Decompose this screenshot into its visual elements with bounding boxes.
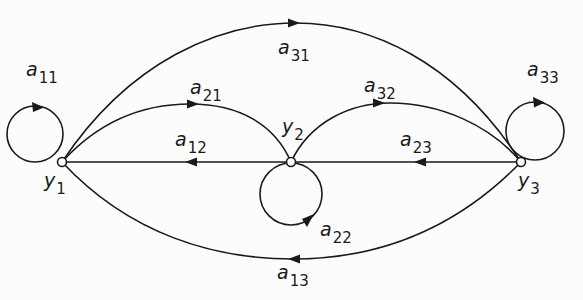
label-y1: y1 xyxy=(44,171,66,190)
arrow-a11-icon xyxy=(32,102,44,112)
label-a22: a22 xyxy=(320,220,352,239)
label-y1-sub: 1 xyxy=(56,180,66,198)
edge-a13 xyxy=(62,162,521,259)
arrow-a21-icon xyxy=(187,100,199,109)
node-y2 xyxy=(287,158,296,167)
arrow-a33-icon xyxy=(533,97,545,108)
label-a11-sub: 11 xyxy=(39,69,58,87)
label-a23-sub: 23 xyxy=(413,139,432,157)
label-a23: a23 xyxy=(400,130,432,149)
label-a32: a32 xyxy=(364,76,396,95)
label-a11-base: a xyxy=(26,58,38,80)
label-a33-sub: 33 xyxy=(540,69,559,87)
label-a31: a31 xyxy=(278,38,310,57)
label-a32-base: a xyxy=(364,74,376,96)
label-a33: a33 xyxy=(527,60,559,79)
label-a12: a12 xyxy=(175,130,207,149)
label-y1-base: y xyxy=(44,169,55,191)
node-y1 xyxy=(58,158,67,167)
arrow-a23-icon xyxy=(414,158,426,167)
label-a13-sub: 13 xyxy=(290,272,309,290)
label-a33-base: a xyxy=(527,58,539,80)
label-a22-sub: 22 xyxy=(333,229,352,247)
label-a13: a13 xyxy=(277,263,309,282)
label-a11: a11 xyxy=(26,60,58,79)
label-a21-sub: 21 xyxy=(203,87,222,105)
node-y3 xyxy=(517,158,526,167)
signal-flow-graph: a11 a31 a21 a32 a33 a12 a23 a22 a13 y1 y… xyxy=(0,0,583,300)
label-a12-base: a xyxy=(175,128,187,150)
label-y3-base: y xyxy=(518,169,529,191)
edge-a33 xyxy=(506,102,564,160)
label-y3: y3 xyxy=(518,171,540,190)
label-y2-base: y xyxy=(282,115,293,137)
label-a23-base: a xyxy=(400,128,412,150)
label-a22-base: a xyxy=(320,218,332,240)
edge-a11 xyxy=(7,106,63,162)
arrow-a22-icon xyxy=(302,214,314,227)
label-y2-sub: 2 xyxy=(294,126,304,144)
label-a21-base: a xyxy=(190,76,202,98)
label-y2: y2 xyxy=(282,117,304,136)
arrow-a12-icon xyxy=(185,158,197,167)
label-a13-base: a xyxy=(277,261,289,283)
label-a12-sub: 12 xyxy=(188,139,207,157)
label-a31-sub: 31 xyxy=(291,47,310,65)
label-a21: a21 xyxy=(190,78,222,97)
arrow-a31-icon xyxy=(288,19,300,28)
label-y3-sub: 3 xyxy=(530,180,540,198)
label-a31-base: a xyxy=(278,36,290,58)
label-a32-sub: 32 xyxy=(377,85,396,103)
